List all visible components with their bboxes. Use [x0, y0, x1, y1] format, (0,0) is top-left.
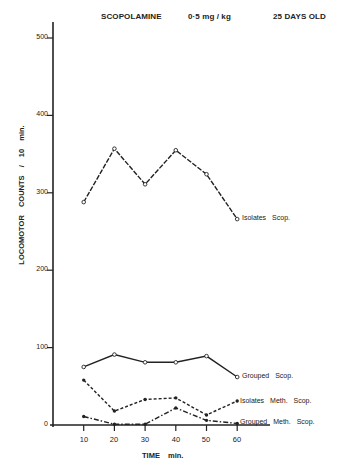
series-label-isolates-meth-scop: Isolates Meth. Scop.: [240, 397, 311, 404]
data-point: [113, 353, 117, 357]
data-point: [205, 413, 208, 416]
data-point: [113, 147, 117, 151]
data-point: [205, 172, 209, 176]
y-tick-200: 200: [24, 265, 48, 272]
x-tick-60: 60: [227, 435, 247, 444]
data-point: [143, 398, 146, 401]
x-tick-40: 40: [166, 435, 186, 444]
data-point: [113, 409, 116, 412]
data-point: [113, 423, 116, 426]
series-label-isolates-scop: Isolates Scop.: [242, 214, 290, 221]
series-label-grouped-scop: Grouped Scop.: [242, 372, 293, 379]
data-point: [235, 375, 239, 379]
y-axis-title: LOCOMOTOR COUNTS / 10 min.: [17, 125, 26, 264]
chart: SCOPOLAMINE 0·5 mg / kg 25 DAYS OLD 0 10…: [0, 0, 337, 471]
data-point: [235, 217, 239, 221]
data-point: [174, 148, 178, 152]
y-tick-400: 400: [24, 110, 48, 117]
x-tick-30: 30: [135, 435, 155, 444]
x-tick-50: 50: [196, 435, 216, 444]
y-tick-500: 500: [24, 33, 48, 40]
data-series: [82, 147, 239, 426]
x-tick-10: 10: [74, 435, 94, 444]
data-point: [82, 200, 86, 204]
data-point: [143, 182, 147, 186]
series-isolates-meth-scop: [82, 378, 239, 416]
x-axis-title: TIME min.: [142, 451, 183, 460]
data-point: [82, 365, 86, 369]
x-axis-ticks: [84, 425, 238, 431]
data-point: [174, 361, 178, 365]
series-isolates-scop: [82, 147, 239, 221]
data-point: [205, 419, 208, 422]
data-point: [236, 422, 239, 425]
y-tick-0: 0: [24, 420, 48, 427]
data-point: [82, 415, 85, 418]
data-point: [174, 396, 177, 399]
x-tick-20: 20: [104, 435, 124, 444]
data-point: [205, 354, 209, 358]
data-point: [236, 399, 239, 402]
y-tick-300: 300: [24, 188, 48, 195]
series-grouped-scop: [82, 353, 239, 379]
data-point: [82, 378, 85, 381]
y-tick-100: 100: [24, 343, 48, 350]
series-grouped-meth-scop: [82, 406, 239, 426]
data-point: [174, 406, 177, 409]
data-point: [143, 423, 146, 426]
data-point: [143, 361, 147, 365]
series-label-grouped-meth-scop: Grouped Meth. Scop.: [240, 418, 315, 425]
